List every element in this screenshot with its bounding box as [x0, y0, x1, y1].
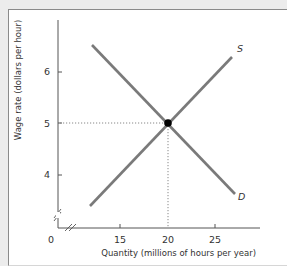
equilibrium-point: [164, 119, 172, 127]
supply-curve: [90, 57, 232, 206]
x-tick-label-15: 15: [114, 234, 126, 245]
origin-label: 0: [48, 234, 54, 245]
demand-label: D: [238, 191, 245, 202]
y-tick-label-4: 4: [44, 169, 50, 180]
x-tick-label-25: 25: [209, 234, 221, 245]
y-tick-label-6: 6: [44, 66, 50, 77]
demand-curve: [92, 45, 235, 194]
y-axis-title: Wage rate (dollars per hour): [13, 20, 23, 140]
x-tick-label-20: 20: [162, 234, 174, 245]
x-axis-title: Quantity (millions of hours per year): [101, 248, 256, 258]
supply-label: S: [237, 43, 243, 54]
labor-market-chart: 6 5 4 0 15 20 25 Quantity (millions of h…: [0, 0, 287, 266]
y-tick-label-5: 5: [44, 118, 50, 129]
